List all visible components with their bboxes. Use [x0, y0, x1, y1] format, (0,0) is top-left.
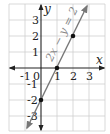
- point-1-0: [55, 66, 60, 71]
- tick-y-1: 1: [32, 46, 39, 59]
- tick-y-neg2: -2: [27, 94, 38, 107]
- tick-y-neg1: -1: [27, 78, 38, 91]
- tick-x-3: 3: [86, 70, 93, 83]
- point-0-neg2: [39, 98, 44, 103]
- coordinate-graph: x y -1 0 1 2 3 3 2 1 -1 -2 -3 2x − y = 2: [0, 0, 110, 134]
- x-axis-label: x: [96, 53, 103, 67]
- point-2-2: [71, 34, 76, 39]
- tick-y-3: 3: [32, 14, 39, 27]
- tick-x-2: 2: [70, 70, 77, 83]
- y-axis-label: y: [43, 2, 51, 16]
- tick-y-2: 2: [32, 30, 39, 43]
